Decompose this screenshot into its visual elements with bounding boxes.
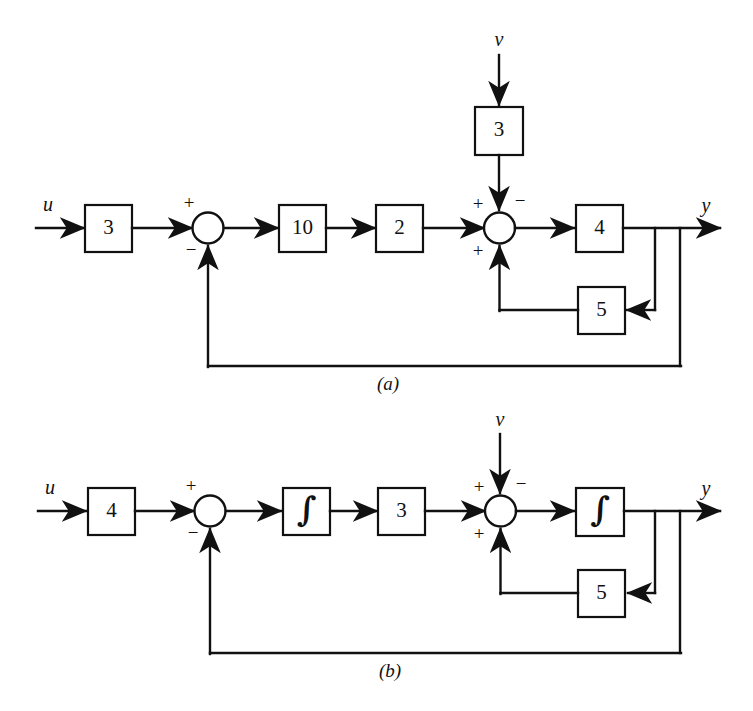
- input-label-u-a: u: [43, 193, 53, 215]
- caption-a: (a): [377, 373, 399, 395]
- inner-summing-junction-b: [485, 496, 516, 527]
- sum2-minus-sign-a: −: [515, 190, 526, 211]
- output-label-y-a: y: [700, 194, 711, 217]
- sum2-feedback-plus-sign-b: +: [474, 523, 485, 544]
- inner-summing-junction-a: [484, 213, 515, 244]
- block-diagram-canvas: u 3 + − 10 2 v: [0, 0, 753, 711]
- block-forward-gain-3-b-label: 3: [396, 498, 407, 522]
- outer-summing-junction-b: [195, 496, 226, 527]
- sum2-feedback-plus-sign-a: +: [473, 240, 484, 261]
- block-plant-integrator-b-label: ∫: [590, 489, 610, 529]
- block-disturbance-gain-a-label: 3: [494, 117, 505, 141]
- block-forward-gain-2-a-label: 2: [394, 215, 405, 239]
- sum2-plus-sign-b: +: [474, 476, 485, 497]
- input-label-u-b: u: [45, 476, 55, 498]
- sum1-minus-sign-b: −: [188, 522, 199, 543]
- figure-page: u 3 + − 10 2 v: [0, 0, 753, 711]
- output-label-y-b: y: [700, 477, 711, 500]
- block-forward-integrator-1-b-label: ∫: [297, 489, 317, 529]
- outer-summing-junction-a: [193, 213, 224, 244]
- sum2-minus-sign-b: −: [516, 473, 527, 494]
- sum1-plus-sign-b: +: [186, 475, 197, 496]
- sum1-plus-sign-a: +: [184, 192, 195, 213]
- diagram-a: u 3 + − 10 2 v: [36, 28, 720, 396]
- sum1-minus-sign-a: −: [186, 239, 197, 260]
- block-input-gain-a-label: 3: [103, 215, 114, 239]
- sum2-plus-sign-a: +: [473, 193, 484, 214]
- disturbance-label-v-b: v: [496, 408, 505, 430]
- block-inner-feedback-gain-b-label: 5: [596, 580, 607, 604]
- block-plant-gain-a-label: 4: [594, 215, 605, 239]
- disturbance-label-v-a: v: [495, 28, 504, 50]
- block-inner-feedback-gain-a-label: 5: [596, 297, 607, 321]
- diagram-b: u 4 + − ∫ 3 v: [38, 408, 720, 683]
- caption-b: (b): [379, 660, 401, 682]
- block-input-gain-b-label: 4: [106, 498, 117, 522]
- block-forward-gain-10-a-label: 10: [292, 215, 313, 239]
